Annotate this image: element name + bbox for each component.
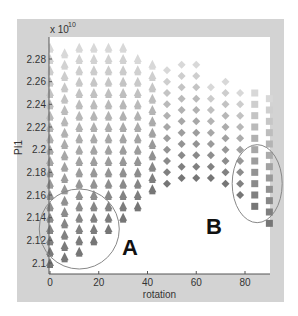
triangle-marker-base — [62, 237, 68, 240]
x-tick-label: 0 — [47, 277, 53, 288]
square-marker — [266, 118, 273, 125]
triangle-marker-base — [91, 129, 97, 132]
triangle-marker-base — [135, 140, 141, 143]
triangle-marker-base — [47, 163, 53, 166]
triangle-marker-base — [76, 186, 82, 189]
square-marker — [266, 175, 273, 182]
triangle-marker-base — [149, 67, 155, 70]
square-marker — [251, 90, 258, 97]
triangle-marker-base — [62, 78, 68, 81]
triangle-marker-base — [91, 106, 97, 109]
y-tick-label: 2.24 — [27, 99, 47, 110]
square-marker — [251, 146, 258, 153]
triangle-marker-base — [135, 174, 141, 177]
triangle-marker-base — [62, 225, 68, 228]
triangle-marker-base — [62, 169, 68, 172]
triangle-marker-base — [149, 169, 155, 172]
triangle-marker-base — [47, 231, 53, 234]
square-marker — [251, 101, 258, 108]
triangle-marker-base — [62, 214, 68, 217]
y-tick-label: 2.16 — [27, 190, 47, 201]
triangle-marker-base — [149, 180, 155, 183]
triangle-marker-base — [62, 180, 68, 183]
triangle-marker-base — [62, 112, 68, 115]
triangle-marker-base — [47, 220, 53, 223]
square-marker — [266, 209, 273, 216]
triangle-marker-base — [62, 89, 68, 92]
annotation-label-a: A — [122, 235, 138, 260]
triangle-marker-base — [91, 174, 97, 177]
triangle-marker-base — [135, 106, 141, 109]
y-tick-label: 2.1 — [32, 258, 46, 269]
triangle-marker-base — [135, 208, 141, 211]
y-multiplier-exponent: 10 — [68, 21, 76, 28]
triangle-marker-base — [62, 135, 68, 138]
triangle-marker-base — [120, 84, 126, 87]
triangle-marker-base — [91, 140, 97, 143]
triangle-marker-base — [106, 220, 112, 223]
x-tick-label: 80 — [239, 277, 251, 288]
square-marker — [266, 95, 273, 102]
square-marker — [251, 135, 258, 142]
triangle-marker-base — [47, 61, 53, 64]
square-marker — [266, 220, 273, 227]
triangle-marker-base — [91, 152, 97, 155]
y-tick-label: 2.14 — [27, 212, 47, 223]
triangle-marker-base — [149, 191, 155, 194]
square-marker — [251, 180, 258, 187]
triangle-marker-base — [106, 61, 112, 64]
triangle-marker-base — [91, 95, 97, 98]
triangle-marker-base — [149, 157, 155, 160]
triangle-marker-base — [91, 208, 97, 211]
triangle-marker-base — [47, 84, 53, 87]
x-axis-label: rotation — [143, 289, 176, 300]
triangle-marker-base — [149, 123, 155, 126]
triangle-marker-base — [120, 140, 126, 143]
triangle-marker-base — [91, 242, 97, 245]
triangle-marker-base — [47, 106, 53, 109]
triangle-marker-base — [76, 163, 82, 166]
triangle-marker-base — [106, 118, 112, 121]
triangle-marker-base — [106, 231, 112, 234]
triangle-marker-base — [149, 89, 155, 92]
triangle-marker-base — [106, 186, 112, 189]
triangle-marker-base — [47, 152, 53, 155]
triangle-marker-base — [76, 50, 82, 53]
triangle-marker-base — [76, 174, 82, 177]
triangle-marker-base — [91, 231, 97, 234]
scatter-chart: 2.12.122.142.162.182.22.222.242.262.2802… — [0, 0, 298, 316]
triangle-marker-base — [47, 265, 53, 268]
triangle-marker-base — [106, 72, 112, 75]
triangle-marker-base — [106, 106, 112, 109]
square-marker — [266, 129, 273, 136]
triangle-marker-base — [76, 242, 82, 245]
triangle-marker-base — [91, 61, 97, 64]
triangle-marker-base — [120, 72, 126, 75]
triangle-marker-base — [135, 129, 141, 132]
triangle-marker-base — [135, 118, 141, 121]
x-tick-label: 20 — [93, 277, 105, 288]
triangle-marker-base — [135, 84, 141, 87]
triangle-marker-base — [76, 84, 82, 87]
square-marker — [251, 112, 258, 119]
x-tick-label: 60 — [191, 277, 203, 288]
square-marker — [266, 107, 273, 114]
triangle-marker-base — [120, 50, 126, 53]
triangle-marker-base — [135, 95, 141, 98]
triangle-marker-base — [91, 50, 97, 53]
triangle-marker-base — [149, 101, 155, 104]
triangle-marker-base — [106, 50, 112, 53]
triangle-marker-base — [62, 203, 68, 206]
square-marker — [251, 169, 258, 176]
triangle-marker-base — [62, 157, 68, 160]
triangle-marker-base — [76, 140, 82, 143]
y-axis-label: PI1 — [13, 140, 24, 155]
square-marker — [251, 124, 258, 131]
triangle-marker-base — [76, 197, 82, 200]
triangle-marker-base — [47, 242, 53, 245]
square-marker — [266, 163, 273, 170]
x-tick-label: 40 — [142, 277, 154, 288]
triangle-marker-base — [120, 152, 126, 155]
triangle-marker-base — [91, 84, 97, 87]
triangle-marker-base — [62, 248, 68, 251]
